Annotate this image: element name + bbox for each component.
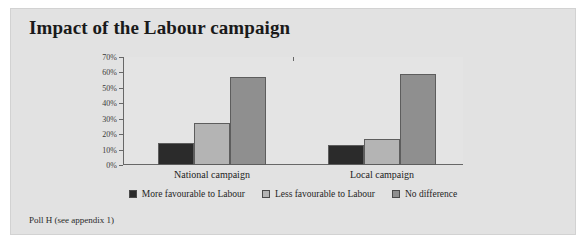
- category-label: Local campaign: [350, 169, 414, 180]
- y-tick-label: 40%: [102, 99, 117, 108]
- y-tick-mark: [119, 165, 123, 166]
- y-tick-label: 0%: [106, 161, 117, 170]
- category-label: National campaign: [174, 169, 250, 180]
- y-tick-mark: [119, 57, 123, 58]
- bar: [400, 74, 436, 165]
- chart-footnote: Poll H (see appendix 1): [29, 215, 114, 225]
- legend-swatch-icon: [262, 190, 270, 198]
- chart-legend: More favourable to LabourLess favourable…: [11, 189, 575, 199]
- y-axis-line: [123, 57, 124, 165]
- bar: [194, 123, 230, 165]
- bar: [364, 139, 400, 165]
- y-tick-mark: [119, 150, 123, 151]
- bar: [230, 77, 266, 165]
- y-tick-label: 50%: [102, 83, 117, 92]
- y-tick-mark: [119, 88, 123, 89]
- legend-label: No difference: [405, 189, 457, 199]
- legend-label: Less favourable to Labour: [275, 189, 375, 199]
- y-tick-mark: [119, 103, 123, 104]
- chart-figure: Impact of the Labour campaign 0%10%20%30…: [10, 8, 576, 235]
- legend-item[interactable]: No difference: [392, 189, 457, 199]
- legend-swatch-icon: [129, 190, 137, 198]
- y-tick-label: 10%: [102, 145, 117, 154]
- category-separator-tick: [293, 57, 294, 61]
- legend-item[interactable]: Less favourable to Labour: [262, 189, 375, 199]
- y-tick-label: 20%: [102, 130, 117, 139]
- y-tick-label: 60%: [102, 68, 117, 77]
- chart-title: Impact of the Labour campaign: [29, 17, 290, 39]
- legend-label: More favourable to Labour: [142, 189, 245, 199]
- y-tick-mark: [119, 134, 123, 135]
- y-tick-label: 30%: [102, 114, 117, 123]
- plot-area: 0%10%20%30%40%50%60%70% National campaig…: [123, 57, 463, 165]
- y-tick-mark: [119, 72, 123, 73]
- bar: [158, 143, 194, 165]
- y-tick-label: 70%: [102, 53, 117, 62]
- legend-swatch-icon: [392, 190, 400, 198]
- bar: [328, 145, 364, 165]
- y-tick-mark: [119, 119, 123, 120]
- legend-item[interactable]: More favourable to Labour: [129, 189, 245, 199]
